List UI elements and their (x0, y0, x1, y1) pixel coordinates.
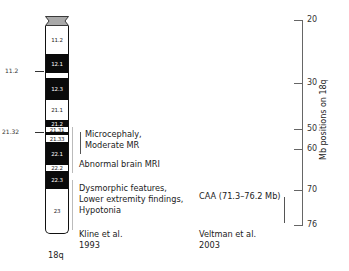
finding-abnormal-mri: Abnormal brain MRI (79, 159, 160, 170)
band-12-1: 12.1 (45, 54, 69, 73)
band-12-3: 12.3 (45, 78, 69, 100)
axis-tick-label: 60 (307, 144, 317, 153)
axis-tick-label: 30 (307, 78, 317, 87)
centromere-cap-icon (45, 16, 69, 26)
axis-tick-label: 50 (307, 124, 317, 133)
axis-tick (294, 149, 303, 150)
axis-tick-label: 70 (307, 185, 317, 194)
chromosome-18q-ideogram: 11.212.112.321.121.221.3121.3322.122.222… (45, 16, 69, 234)
axis-tick-label: 76 (307, 220, 317, 229)
finding-caa: CAA (71.3–76.2 Mb) (199, 191, 281, 202)
band-marker-label: 11.2 (5, 67, 18, 74)
kline-citation: Kline et al. 1993 (79, 229, 123, 251)
band-21-33: 21.33 (45, 135, 69, 142)
finding-dysmorphic: Dysmorphic features, Lower extremity fin… (79, 183, 183, 216)
kline-region-bar-2 (72, 180, 73, 230)
band-marker-line (35, 132, 44, 133)
band-marker-line (35, 71, 44, 72)
axis-tick (294, 129, 303, 130)
mb-axis-line (302, 20, 303, 226)
microcephaly-region-bar (80, 132, 81, 154)
axis-tick-label: 20 (307, 15, 317, 24)
kline-region-bar-1 (72, 127, 73, 173)
band-22-1: 22.1 (45, 142, 69, 165)
finding-microcephaly: Microcephaly, Moderate MR (85, 129, 142, 151)
chromosome-label: 18q (48, 250, 64, 261)
axis-tick (294, 225, 303, 226)
axis-tick (294, 190, 303, 191)
veltman-citation: Veltman et al. 2003 (199, 229, 256, 251)
band-marker-label: 21.32 (2, 128, 19, 135)
band-21-1: 21.1 (45, 100, 69, 120)
axis-tick (294, 83, 303, 84)
axis-tick (294, 20, 303, 21)
band-23: 23 (45, 189, 69, 234)
caa-region-bar (284, 197, 285, 223)
axis-title: Mb positions on 18q (318, 148, 329, 160)
band-22-3: 22.3 (45, 171, 69, 189)
band-11-2: 11.2 (45, 26, 69, 54)
